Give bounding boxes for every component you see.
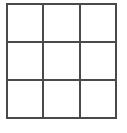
grid-cell-r1-c1[interactable] <box>8 5 42 41</box>
grid-figure <box>6 3 117 119</box>
grid-cell-r1-c3[interactable] <box>81 5 115 41</box>
grid-cell-r2-c1[interactable] <box>8 43 42 79</box>
canvas <box>0 0 127 133</box>
grid-cell-r2-c3[interactable] <box>81 43 115 79</box>
grid-cell-r2-c2[interactable] <box>44 43 78 79</box>
grid-cell-r3-c1[interactable] <box>8 81 42 117</box>
grid-cell-r3-c3[interactable] <box>81 81 115 117</box>
grid-cell-r1-c2[interactable] <box>44 5 78 41</box>
grid-cell-r3-c2[interactable] <box>44 81 78 117</box>
